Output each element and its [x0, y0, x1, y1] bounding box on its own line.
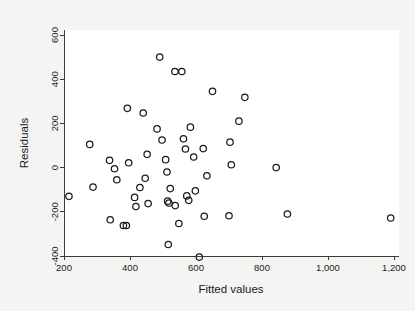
y-axis-title: Residuals: [18, 118, 30, 169]
y-tick-label: 400: [49, 71, 60, 87]
plot-panel-background: [64, 30, 399, 256]
y-tick-label: 200: [49, 115, 60, 131]
x-tick-label: 400: [122, 262, 138, 273]
x-axis-title: Fitted values: [198, 283, 263, 295]
x-tick-label: 200: [56, 262, 72, 273]
y-tick-label: -200: [49, 202, 60, 221]
chart-figure: -400-2000200400600 2004006008001,0001,20…: [0, 0, 415, 311]
residuals-vs-fitted-scatter-plot: -400-2000200400600 2004006008001,0001,20…: [0, 0, 415, 311]
x-tick-label: 800: [254, 262, 270, 273]
x-tick-label: 1,000: [316, 262, 340, 273]
y-tick-label: 600: [49, 27, 60, 43]
y-tick-label: 0: [49, 165, 60, 170]
x-tick-label: 600: [188, 262, 204, 273]
x-tick-label: 1,200: [382, 262, 406, 273]
